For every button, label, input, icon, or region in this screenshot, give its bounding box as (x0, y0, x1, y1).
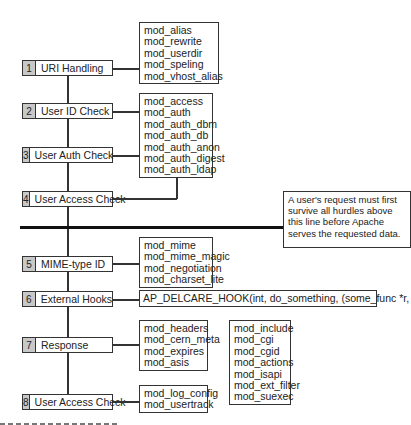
step-number: 1 (23, 61, 36, 75)
step-label: MIME-type ID (36, 258, 105, 270)
connector (113, 198, 177, 200)
step-user-auth-check: 3 User Auth Check (22, 147, 113, 163)
step-user-id-check: 2 User ID Check (22, 103, 113, 119)
step-label: User Auth Check (30, 149, 114, 161)
module-item: mod_charset_lite (144, 274, 208, 285)
module-item: mod_speling (144, 59, 214, 70)
step-number: 5 (23, 257, 36, 271)
hook-declaration-box: AP_DELCARE_HOOK(int, do_something, (some… (139, 290, 377, 307)
figure-caption-clipped (0, 421, 120, 425)
module-item: mod_vhost_alias (144, 71, 214, 82)
hurdle-note: A user's request must first survive all … (283, 191, 411, 248)
step-number: 2 (23, 104, 36, 118)
flow-spine (67, 76, 69, 402)
connector (113, 68, 139, 70)
step-uri-handling: 1 URI Handling (22, 60, 113, 76)
connector (113, 111, 139, 113)
step-label: User ID Check (36, 105, 109, 117)
step-label: Response (36, 339, 88, 351)
connector (113, 299, 139, 301)
logging-modules-box: mod_log_config mod_usertrack (139, 385, 208, 413)
connector (113, 344, 139, 346)
step-label: URI Handling (36, 62, 103, 74)
step-mime-type-id: 5 MIME-type ID (22, 256, 113, 272)
content-modules-box: mod_include mod_cgi mod_cgid mod_actions… (229, 320, 291, 405)
mime-modules-box: mod_mime mod_mime_magic mod_negotiation … (139, 237, 213, 288)
step-user-access-check-final: 8 User Access Check (22, 394, 113, 410)
uri-modules-box: mod_alias mod_rewrite mod_userdir mod_sp… (139, 22, 219, 84)
step-external-hooks: 6 External Hooks (22, 291, 113, 307)
step-response: 7 Response (22, 337, 113, 353)
response-modules-box: mod_headers mod_cern_meta mod_expires mo… (139, 320, 208, 371)
module-item: mod_auth_ldap (144, 164, 208, 175)
step-number: 7 (23, 338, 36, 352)
module-item: mod_usertrack (144, 399, 203, 410)
module-item: mod_actions (234, 357, 286, 368)
connector (113, 401, 139, 403)
module-item: mod_auth_db (144, 130, 208, 141)
module-item: mod_suexec (234, 391, 286, 402)
connector (176, 178, 178, 199)
step-label: User Access Check (30, 396, 126, 408)
connector (113, 155, 139, 157)
step-label: User Access Check (30, 193, 126, 205)
module-item: mod_asis (144, 357, 203, 368)
auth-modules-box: mod_access mod_auth mod_auth_dbm mod_aut… (139, 93, 213, 178)
connector (113, 263, 139, 265)
step-label: External Hooks (36, 293, 112, 305)
step-user-access-check: 4 User Access Check (22, 191, 113, 207)
step-number: 6 (23, 292, 36, 306)
